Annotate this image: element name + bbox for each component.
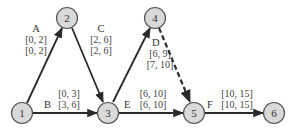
node-6: 6 [264, 103, 285, 124]
activity-A-name: A [32, 23, 40, 34]
node-2-label: 2 [64, 12, 70, 24]
node-2: 2 [57, 8, 78, 29]
activity-F-early: [10, 15] [221, 88, 253, 99]
activity-D-name: D [152, 37, 160, 48]
node-5: 5 [184, 103, 205, 124]
activity-B-name: B [44, 99, 51, 110]
activity-labels: A [0, 2] [0, 2] B [0, 3] [3, 6] C [2, 6]… [25, 23, 253, 110]
activity-F-late: [10, 15] [221, 99, 253, 110]
activity-C-name: C [97, 23, 104, 34]
activity-E-name: E [124, 99, 130, 110]
node-4-label: 4 [152, 12, 158, 24]
node-6-label: 6 [271, 107, 277, 119]
activity-network-diagram: A [0, 2] [0, 2] B [0, 3] [3, 6] C [2, 6]… [0, 0, 294, 130]
node-3-label: 3 [105, 107, 111, 119]
activity-D-early: [6, 9] [149, 48, 171, 59]
node-4: 4 [145, 8, 166, 29]
activity-C-early: [2, 6] [90, 34, 112, 45]
activity-B-early: [0, 3] [58, 88, 80, 99]
activity-A-late: [0, 2] [25, 45, 47, 56]
node-1-label: 1 [19, 107, 25, 119]
activity-E-late: [6, 10] [140, 99, 167, 110]
activity-C-late: [2, 6] [90, 45, 112, 56]
activity-D-late: [7, 10] [147, 59, 174, 70]
activity-A-early: [0, 2] [25, 34, 47, 45]
activity-E-early: [6, 10] [140, 88, 167, 99]
activity-F-name: F [207, 99, 213, 110]
node-3: 3 [98, 103, 119, 124]
node-1: 1 [12, 103, 33, 124]
node-5-label: 5 [191, 107, 197, 119]
activity-B-late: [3, 6] [58, 99, 80, 110]
